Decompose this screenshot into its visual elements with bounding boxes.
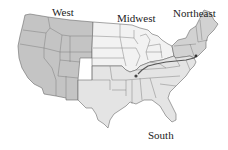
- region-label-northeast: Northeast: [173, 8, 216, 19]
- us-map-graphic: [0, 0, 228, 150]
- region-label-west: West: [52, 7, 74, 18]
- route-end-marker: [195, 55, 198, 58]
- us-regions-map: West Midwest Northeast South: [0, 0, 228, 150]
- region-label-midwest: Midwest: [117, 13, 156, 24]
- region-label-south: South: [148, 130, 174, 141]
- route-start-marker: [134, 74, 137, 77]
